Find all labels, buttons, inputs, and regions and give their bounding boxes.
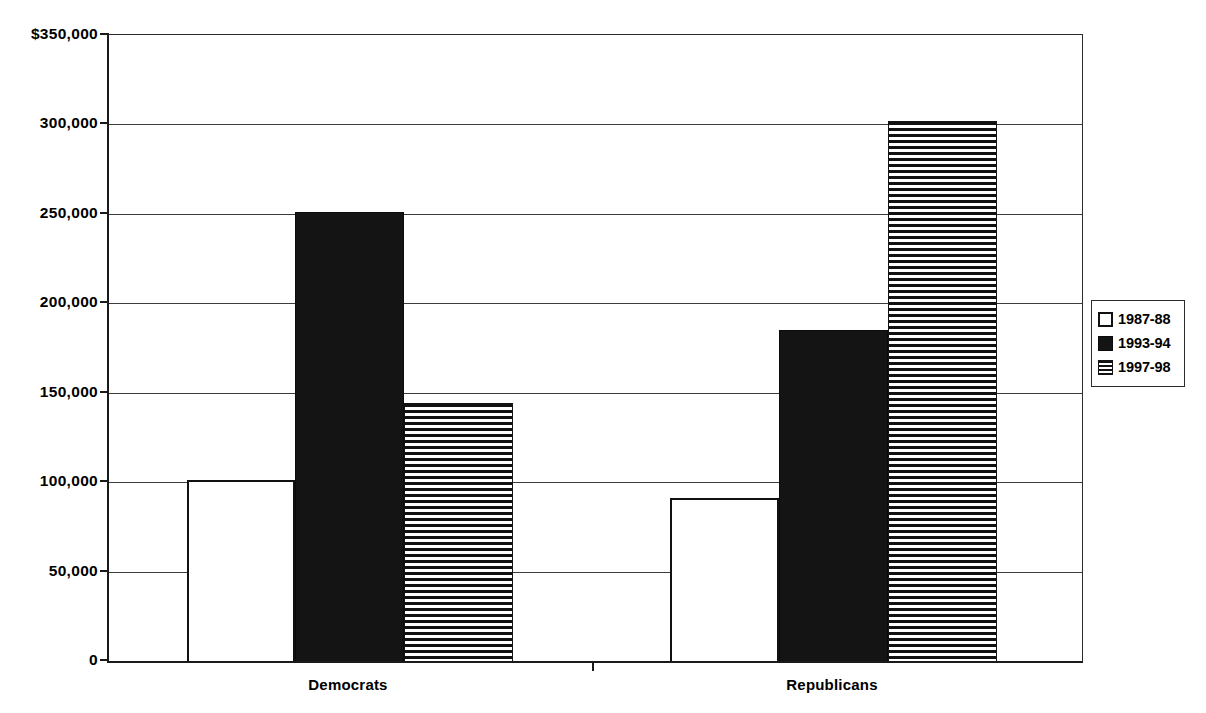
legend-item-label: 1993-94 (1118, 335, 1171, 351)
legend-item-label: 1997-98 (1118, 359, 1171, 375)
legend-item-label: 1987-88 (1118, 311, 1171, 327)
bar-republicans-1987-88 (670, 498, 779, 661)
y-axis-tick-label-150000: 150,000 (0, 383, 98, 401)
legend: 1987-88 1993-94 1997-98 (1091, 300, 1185, 387)
bar-democrats-1987-88 (187, 480, 295, 661)
y-axis-tick-label-0: 0 (0, 651, 98, 669)
legend-item-1987-88: 1987-88 (1098, 307, 1179, 331)
y-axis-tick-label-350000: $350,000 (0, 25, 98, 43)
x-axis-category-label-republicans: Republicans (786, 676, 877, 693)
striped-square-icon (1098, 360, 1113, 375)
legend-item-1997-98: 1997-98 (1098, 355, 1179, 379)
bar-republicans-1997-98 (888, 121, 997, 661)
y-axis-tick-label-250000: 250,000 (0, 204, 98, 222)
bar-republicans-1993-94 (779, 330, 888, 661)
bar-chart-figure: $350,000 300,000 250,000 200,000 150,000… (0, 0, 1206, 713)
filled-square-icon (1098, 336, 1113, 351)
bar-democrats-1997-98 (404, 403, 513, 661)
bar-democrats-1993-94 (295, 212, 404, 661)
plot-area (107, 34, 1083, 663)
x-axis-category-label-democrats: Democrats (308, 676, 387, 693)
y-axis-tick-label-100000: 100,000 (0, 472, 98, 490)
y-axis-tick-label-200000: 200,000 (0, 293, 98, 311)
x-axis-category-divider (592, 661, 594, 671)
y-axis-tick-label-300000: 300,000 (0, 114, 98, 132)
y-axis-tick-label-50000: 50,000 (0, 562, 98, 580)
legend-item-1993-94: 1993-94 (1098, 331, 1179, 355)
open-square-icon (1098, 312, 1113, 327)
